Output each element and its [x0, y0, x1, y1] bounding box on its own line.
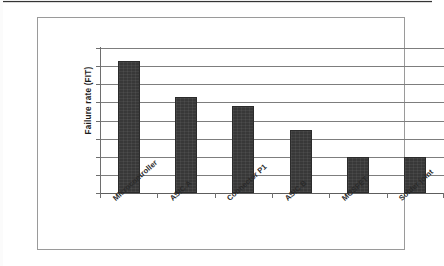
y-axis-line — [100, 47, 101, 196]
y-axis-tick — [96, 48, 101, 49]
gridline — [100, 48, 444, 49]
y-axis-tick — [96, 157, 101, 158]
plot-inner — [100, 49, 444, 194]
plot-area — [100, 49, 444, 194]
gridline — [100, 84, 444, 85]
gridline — [100, 121, 444, 122]
y-axis-tick — [96, 84, 101, 85]
scan-artifact-left-edge — [0, 0, 3, 266]
y-axis-tick — [96, 175, 101, 176]
y-axis-tick — [96, 139, 101, 140]
y-axis-tick — [96, 121, 101, 122]
y-axis-tick — [96, 66, 101, 67]
gridline — [100, 139, 444, 140]
chart-figure-frame: Failure rate (FIT) MicrocontrollerASIC A… — [37, 17, 405, 250]
y-axis-tick — [96, 102, 101, 103]
y-axis-title: Failure rate (FIT) — [84, 41, 93, 161]
gridline — [100, 66, 444, 67]
scan-artifact-top-edge — [0, 0, 432, 3]
gridline — [100, 175, 444, 176]
x-axis-tick-labels: MicrocontrollerASIC AConnector P1ASIC BM… — [100, 196, 444, 266]
gridline — [100, 102, 444, 103]
